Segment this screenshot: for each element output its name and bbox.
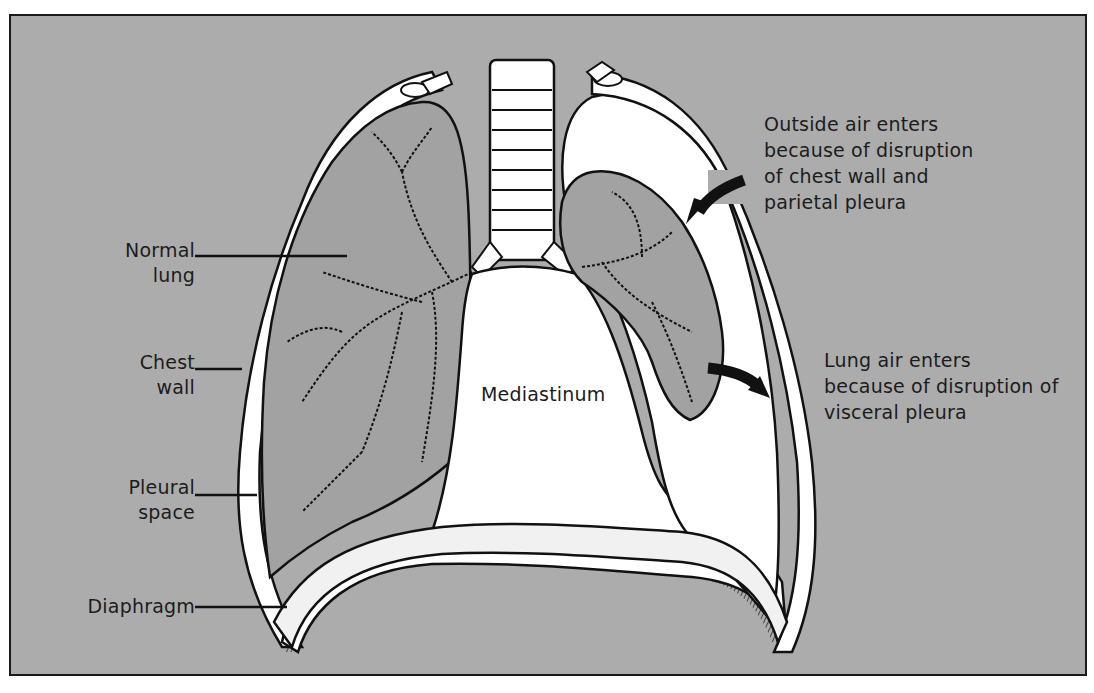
label-diaphragm: Diaphragm xyxy=(51,594,195,619)
label-chest-wall: Chest wall xyxy=(101,350,195,400)
label-outside-air: Outside air enters because of disruption… xyxy=(764,111,974,215)
label-mediastinum: Mediastinum xyxy=(481,382,606,407)
label-pleural-space: Pleural space xyxy=(101,475,195,525)
label-normal-lung: Normal lung xyxy=(101,238,195,288)
pneumothorax-figure: Normal lung Chest wall Pleural space Dia… xyxy=(9,14,1087,676)
label-lung-air: Lung air enters because of disruption of… xyxy=(824,347,1059,425)
